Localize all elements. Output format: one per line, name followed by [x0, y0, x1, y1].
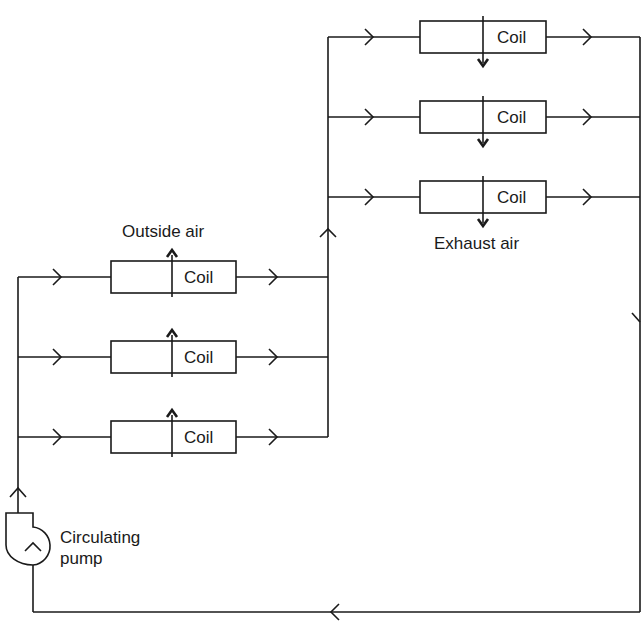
outside-air-arrows: [167, 250, 177, 457]
pump-label-line2: pump: [60, 549, 103, 569]
exhaust-branch-2: [328, 101, 640, 133]
supply-branch-1: [18, 261, 328, 293]
exhaust-coil-1-label: Coil: [497, 28, 526, 48]
supply-coil-2-label: Coil: [184, 348, 213, 368]
exhaust-branch-1: [328, 21, 640, 53]
supply-coil-3-label: Coil: [184, 428, 213, 448]
circulating-pump-icon: [6, 513, 50, 565]
coil-box: [111, 261, 236, 293]
exhaust-coil-3-label: Coil: [497, 188, 526, 208]
supply-branch-3: [18, 421, 328, 453]
coil-box: [111, 421, 236, 453]
exhaust-branch-3: [328, 181, 640, 213]
exhaust-air-arrows: [478, 16, 488, 226]
outside-air-label: Outside air: [122, 222, 204, 242]
exhaust-air-label: Exhaust air: [434, 234, 519, 254]
coil-box: [111, 341, 236, 373]
supply-coil-1-label: Coil: [184, 268, 213, 288]
supply-branch-2: [18, 341, 328, 373]
flow-arrow-down-icon: [632, 313, 640, 322]
pump-label-line1: Circulating: [60, 528, 140, 548]
exhaust-coil-2-label: Coil: [497, 108, 526, 128]
